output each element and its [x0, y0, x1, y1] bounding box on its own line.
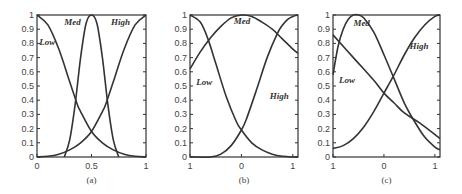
panel-caption: (a) [87, 175, 97, 185]
curve-med [64, 15, 119, 157]
y-tick-label: 0.1 [21, 138, 34, 148]
series-label-high: High [269, 91, 289, 101]
x-tick-label: 1 [330, 161, 335, 171]
y-tick-label: 0.6 [317, 67, 330, 77]
series-label-low: Low [195, 77, 213, 87]
y-tick-label: 1 [325, 10, 330, 20]
x-tick-label: 0.5 [85, 161, 98, 171]
y-tick-label: 0.2 [317, 124, 330, 134]
y-tick-label: 0.1 [317, 138, 330, 148]
series-label-high: High [408, 41, 428, 51]
y-tick-label: 1 [182, 10, 187, 20]
y-tick-label: 0.2 [21, 124, 34, 134]
y-tick-label: 0.4 [21, 95, 34, 105]
y-tick-label: 0.5 [317, 81, 330, 91]
y-tick-label: 0 [182, 152, 187, 162]
y-tick-label: 0.2 [174, 124, 187, 134]
figure: 00.10.20.30.40.50.60.70.80.9100.51(a)Low… [0, 0, 462, 194]
x-tick-label: 0 [381, 161, 386, 171]
chart-panel-a: 00.10.20.30.40.50.60.70.80.9100.51(a)Low… [21, 10, 148, 185]
y-tick-label: 0.4 [317, 95, 330, 105]
y-tick-label: 0.1 [174, 138, 187, 148]
series-label-med: Med [233, 16, 251, 26]
panel-caption: (b) [239, 175, 250, 185]
y-tick-label: 1 [29, 10, 34, 20]
y-tick-label: 0.6 [21, 67, 34, 77]
y-tick-label: 0.4 [174, 95, 187, 105]
y-tick-label: 0.7 [21, 53, 34, 63]
y-tick-label: 0.3 [174, 109, 187, 119]
series-label-med: Med [352, 18, 370, 28]
x-tick-label: 1 [187, 161, 192, 171]
x-tick-label: 0 [34, 161, 39, 171]
y-tick-label: 0.5 [174, 81, 187, 91]
y-tick-label: 0 [325, 152, 330, 162]
y-tick-label: 0.8 [317, 38, 330, 48]
y-tick-label: 0.3 [21, 109, 34, 119]
y-tick-label: 0.8 [174, 38, 187, 48]
y-tick-label: 0.8 [21, 38, 34, 48]
x-tick-label: 1 [432, 161, 437, 171]
x-tick-label: 1 [290, 161, 295, 171]
series-label-med: Med [63, 17, 81, 27]
x-tick-label: 1 [143, 161, 148, 171]
y-tick-label: 0.3 [317, 109, 330, 119]
series-label-low: Low [338, 75, 356, 85]
y-tick-label: 0.7 [317, 53, 330, 63]
chart-panel-b: 00.10.20.30.40.50.60.70.80.91101(b)LowMe… [174, 10, 298, 185]
chart-panel-c: 00.10.20.30.40.50.60.70.80.91101(c)LowMe… [317, 10, 440, 185]
y-tick-label: 0.6 [174, 67, 187, 77]
panel-caption: (c) [382, 175, 392, 185]
y-tick-label: 0.9 [21, 24, 34, 34]
y-tick-label: 0.7 [174, 53, 187, 63]
y-tick-label: 0.9 [174, 24, 187, 34]
series-label-high: High [110, 17, 130, 27]
y-tick-label: 0 [29, 152, 34, 162]
y-tick-label: 0.5 [21, 81, 34, 91]
series-label-low: Low [38, 37, 56, 47]
x-tick-label: 0 [239, 161, 244, 171]
y-tick-label: 0.9 [317, 24, 330, 34]
